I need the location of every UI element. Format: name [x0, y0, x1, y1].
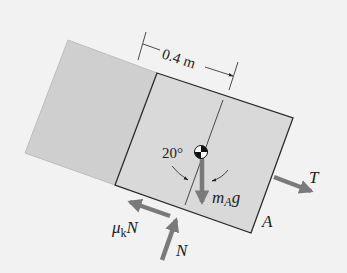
- center-of-gravity-icon: [195, 146, 208, 159]
- block-a-label: A: [261, 212, 273, 231]
- weight-label-main: m: [212, 188, 224, 207]
- dimension-ext-right: [229, 62, 238, 90]
- dimension-ext-left: [138, 32, 146, 60]
- tension-label: T: [309, 168, 320, 187]
- normal-arrow: [162, 220, 176, 260]
- friction-label: μkN: [111, 218, 140, 240]
- dimension-label: 0.4 m: [160, 46, 198, 72]
- dimension-line-right: [205, 67, 233, 76]
- weight-label-tail: g: [232, 188, 241, 207]
- friction-label-main: μ: [111, 218, 121, 237]
- angle-label: 20°: [162, 145, 183, 161]
- dimension-line-left: [143, 44, 160, 50]
- friction-arrow: [130, 202, 170, 216]
- normal-label: N: [175, 241, 189, 260]
- tension-arrow: [274, 177, 311, 191]
- friction-label-tail: N: [126, 218, 140, 237]
- free-body-diagram: 0.4 m 20° mAg T A μkN N: [0, 0, 347, 273]
